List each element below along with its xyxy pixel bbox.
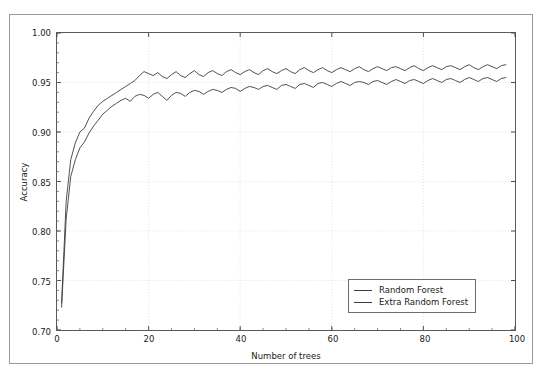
y-tick-label: 0.70	[32, 327, 51, 337]
y-tick-label: 0.75	[32, 277, 51, 287]
y-tick-label: 0.85	[32, 178, 51, 188]
x-axis-label: Number of trees	[56, 351, 516, 361]
y-tick-label: 1.00	[32, 28, 51, 38]
x-tick-label: 60	[328, 334, 339, 344]
legend-line-icon	[354, 290, 372, 291]
y-tick-label: 0.90	[32, 128, 51, 138]
legend-line-icon	[354, 302, 372, 303]
y-tick-label: 0.80	[32, 227, 51, 237]
x-tick-label: 100	[509, 334, 525, 344]
legend-label-random-forest: Random Forest	[379, 285, 443, 295]
chart-legend: Random Forest Extra Random Forest	[348, 279, 476, 313]
figure-frame: Accuracy 0.700.750.800.850.900.951.00020…	[9, 14, 533, 364]
legend-label-extra-random-forest: Extra Random Forest	[379, 297, 468, 307]
legend-item-extra-random-forest: Extra Random Forest	[354, 296, 468, 308]
plot-area-wrapper: Accuracy 0.700.750.800.850.900.951.00020…	[10, 15, 534, 365]
x-tick-label: 20	[144, 334, 155, 344]
page-text-bleed	[0, 0, 542, 12]
legend-item-random-forest: Random Forest	[354, 284, 468, 296]
y-axis-label: Accuracy	[18, 32, 30, 331]
y-axis-label-text: Accuracy	[19, 162, 29, 201]
y-tick-label: 0.95	[32, 78, 51, 88]
x-tick-label: 40	[236, 334, 247, 344]
x-tick-label: 80	[420, 334, 431, 344]
x-tick-label: 0	[54, 334, 59, 344]
